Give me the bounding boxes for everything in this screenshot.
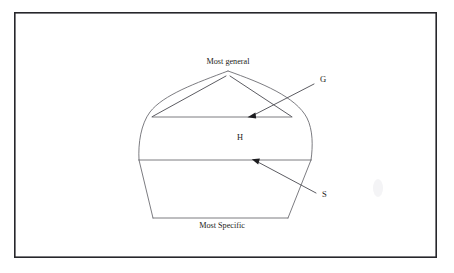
general-boundary-label: G xyxy=(320,74,326,84)
specific-boundary-label: S xyxy=(322,189,327,199)
version-space-figure: Most general G H S Most Specific xyxy=(0,0,454,273)
paper-speck xyxy=(373,179,383,197)
figure-root: Most general G H S Most Specific xyxy=(0,0,454,273)
hypothesis-space-label: H xyxy=(237,133,243,142)
most-specific-label: Most Specific xyxy=(199,221,245,230)
most-general-label: Most general xyxy=(207,57,251,66)
